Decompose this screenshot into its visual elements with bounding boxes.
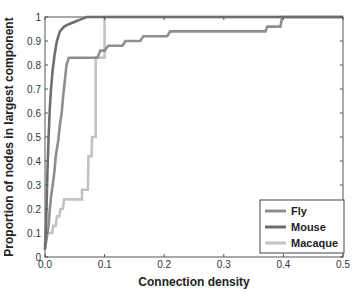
x-tick-label: 0.3 <box>217 259 231 270</box>
y-tick-label: 0.4 <box>27 156 41 167</box>
x-tick-label: 0.4 <box>276 259 290 270</box>
x-tick-label: 0.1 <box>98 259 112 270</box>
legend-label-fly: Fly <box>291 205 308 217</box>
y-tick-label: 0.1 <box>27 228 41 239</box>
legend-label-mouse: Mouse <box>291 221 326 233</box>
y-tick-label: 0 <box>35 252 41 263</box>
legend: FlyMouseMacaque <box>260 200 344 253</box>
chart: 0.00.10.20.30.40.500.10.20.30.40.50.60.7… <box>0 0 356 294</box>
legend-label-macaque: Macaque <box>291 237 338 249</box>
x-tick-label: 0.5 <box>336 259 350 270</box>
y-axis-label: Proportion of nodes in largest component <box>2 17 16 256</box>
y-tick-label: 0.7 <box>27 84 41 95</box>
y-tick-label: 0.8 <box>27 60 41 71</box>
y-tick-label: 0.5 <box>27 132 41 143</box>
x-tick-label: 0.2 <box>157 259 171 270</box>
y-tick-label: 1 <box>35 12 41 23</box>
y-tick-label: 0.2 <box>27 204 41 215</box>
y-tick-label: 0.6 <box>27 108 41 119</box>
y-tick-label: 0.3 <box>27 180 41 191</box>
x-axis-label: Connection density <box>138 275 250 289</box>
y-tick-label: 0.9 <box>27 36 41 47</box>
